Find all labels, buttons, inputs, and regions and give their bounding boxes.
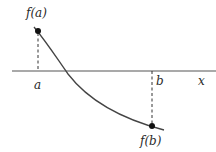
label-fa: f(a)	[25, 6, 47, 20]
function-diagram: f(a) a b x f(b)	[0, 0, 216, 152]
label-x: x	[198, 74, 205, 88]
label-fb: f(b)	[139, 134, 162, 148]
function-curve	[34, 27, 164, 130]
point-fb	[149, 123, 155, 129]
label-b: b	[156, 74, 164, 88]
point-fa	[35, 28, 41, 34]
label-a: a	[34, 78, 41, 92]
